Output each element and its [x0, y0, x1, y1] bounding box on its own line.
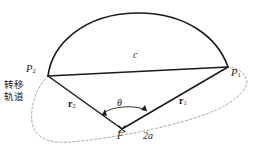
transfer-orbit-diagram: P2 P1 c r2 r1 θ F 2a 转移 轨道 — [0, 0, 273, 151]
label-radius-r1: r1 — [179, 96, 187, 107]
label-major-axis-2a: 2a — [143, 131, 153, 141]
radius-vector-r1 — [122, 67, 228, 129]
radius-vector-r2 — [48, 76, 122, 129]
label-angle-theta: θ — [117, 98, 122, 108]
transfer-orbit-dashed-ellipse — [32, 67, 247, 142]
label-transfer-orbit-line2: 轨道 — [4, 92, 25, 102]
label-point-p1: P1 — [231, 68, 241, 79]
label-point-p2: P2 — [26, 64, 36, 75]
chord-line — [48, 67, 228, 76]
label-chord-c: c — [133, 50, 137, 60]
label-radius-r2: r2 — [68, 99, 76, 110]
label-focus-f: F — [117, 131, 123, 141]
theta-angle-arc — [102, 105, 147, 116]
transfer-arc-solid — [48, 13, 228, 76]
label-transfer-orbit-line1: 转移 — [4, 80, 25, 90]
